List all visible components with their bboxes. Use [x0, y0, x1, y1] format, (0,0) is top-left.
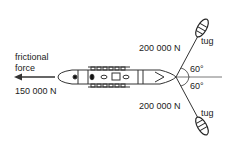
tug-bottom-label: tug	[201, 108, 214, 118]
friction-label-line1: frictional	[15, 52, 49, 62]
friction-label-line2: force	[15, 63, 35, 73]
friction-value: 150 000 N	[15, 86, 57, 96]
angle-arc-top	[181, 68, 189, 77]
tug-top-label: tug	[201, 36, 214, 46]
tug-bottom-force: 200 000 N	[139, 101, 181, 111]
airplane	[58, 67, 176, 87]
angle-top-label: 60°	[190, 64, 204, 74]
friction-arrow	[14, 74, 55, 81]
tug-top-force: 200 000 N	[139, 43, 181, 53]
tug-bottom	[193, 115, 211, 137]
angle-bottom-label: 60°	[190, 81, 204, 91]
diagram-canvas	[0, 0, 233, 153]
angle-arc-bottom	[181, 77, 189, 86]
